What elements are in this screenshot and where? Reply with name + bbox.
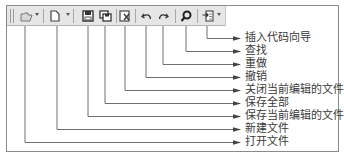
callout-label-insert-code-wizard: 插入代码向导 [245, 32, 311, 44]
callout-label-save-all: 保存全部 [245, 97, 289, 109]
callout-label-new-file: 新建文件 [245, 123, 289, 135]
callout-label-save: 保存当前编辑的文件 [245, 110, 344, 122]
callout-label-undo: 撤销 [245, 71, 267, 83]
callout-label-open-file: 打开文件 [245, 136, 289, 148]
callout-label-close-file: 关闭当前编辑的文件 [245, 84, 344, 96]
callout-label-redo: 重做 [245, 58, 267, 70]
callout-label-find: 查找 [245, 45, 267, 57]
